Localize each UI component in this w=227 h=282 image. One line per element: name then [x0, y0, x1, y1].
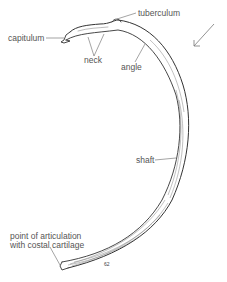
label-shaft: shaft: [136, 156, 154, 165]
direction-arrow-icon: [194, 24, 214, 46]
label-tuberculum: tuberculum: [138, 9, 180, 18]
label-angle: angle: [121, 63, 142, 72]
label-articulation-line2: with costal cartilage: [10, 241, 84, 250]
rib-diagram: capitulum tuberculum neck angle shaft po…: [0, 0, 227, 282]
label-capitulum: capitulum: [8, 34, 44, 43]
label-neck: neck: [84, 56, 102, 65]
plate-number: 62: [104, 260, 110, 269]
